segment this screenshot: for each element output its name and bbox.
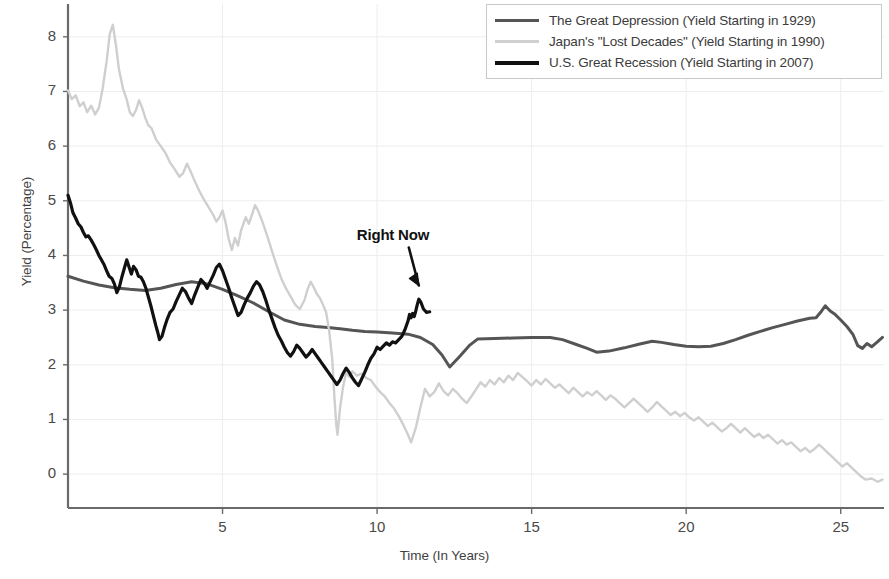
- plot-area: [0, 0, 889, 579]
- axis-lines: [68, 4, 884, 508]
- x-tick-label: 10: [357, 518, 397, 535]
- x-tick-label: 25: [821, 518, 861, 535]
- y-tick-label: 7: [16, 81, 56, 98]
- x-axis-title: Time (In Years): [0, 548, 889, 563]
- y-tick-label: 0: [16, 464, 56, 481]
- legend-item[interactable]: The Great Depression (Yield Starting in …: [495, 10, 875, 31]
- chart-legend: The Great Depression (Yield Starting in …: [486, 4, 882, 79]
- legend-label-us-great-recession: U.S. Great Recession (Yield Starting in …: [549, 55, 813, 70]
- data-series: [68, 25, 882, 482]
- x-tick-label: 15: [512, 518, 552, 535]
- right-now-annotation-label: Right Now: [357, 226, 429, 243]
- legend-label-japan-lost-decades: Japan's "Lost Decades" (Yield Starting i…: [549, 34, 825, 49]
- series-line-1: [68, 25, 882, 482]
- y-axis-title: Yield (Percentage): [19, 152, 34, 312]
- yield-comparison-chart: Yield (Percentage) Time (In Years) 87654…: [0, 0, 889, 579]
- y-tick-label: 2: [16, 355, 56, 372]
- legend-swatch-great-depression: [495, 19, 539, 22]
- y-tick-label: 1: [16, 409, 56, 426]
- x-tick-label: 5: [203, 518, 243, 535]
- legend-swatch-japan-lost-decades: [495, 40, 539, 43]
- y-tick-label: 5: [16, 191, 56, 208]
- x-tick-label: 20: [666, 518, 706, 535]
- y-tick-label: 3: [16, 300, 56, 317]
- legend-label-great-depression: The Great Depression (Yield Starting in …: [549, 13, 816, 28]
- series-line-0: [68, 276, 882, 367]
- y-tick-label: 8: [16, 27, 56, 44]
- arrow-head: [409, 273, 419, 286]
- right-now-arrow: [409, 248, 419, 286]
- axis-ticks: [63, 37, 841, 514]
- legend-swatch-us-great-recession: [495, 61, 539, 65]
- legend-item[interactable]: U.S. Great Recession (Yield Starting in …: [495, 52, 875, 73]
- legend-item[interactable]: Japan's "Lost Decades" (Yield Starting i…: [495, 31, 875, 52]
- y-tick-label: 6: [16, 136, 56, 153]
- gridlines: [68, 4, 884, 508]
- y-tick-label: 4: [16, 245, 56, 262]
